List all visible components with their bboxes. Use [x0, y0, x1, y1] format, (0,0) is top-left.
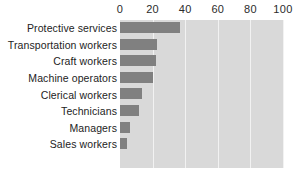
x-tick-label: 40	[179, 2, 192, 16]
x-tick-label: 20	[146, 2, 159, 16]
category-label: Machine operators	[28, 72, 117, 84]
bar	[120, 55, 156, 66]
category-row: Managers	[0, 120, 117, 137]
category-row: Sales workers	[0, 136, 117, 153]
category-axis-labels: Protective servicesTransportation worker…	[0, 20, 117, 168]
bar	[120, 22, 180, 33]
x-tick-label: 80	[244, 2, 257, 16]
category-label: Craft workers	[53, 55, 117, 67]
category-label: Transportation workers	[8, 39, 117, 51]
gridline	[283, 20, 284, 168]
x-tick-label: 60	[211, 2, 224, 16]
bar-row	[120, 86, 283, 103]
category-label: Managers	[70, 122, 118, 134]
bar-chart: 020406080100 Protective servicesTranspor…	[0, 0, 295, 177]
category-label: Clerical workers	[41, 89, 117, 101]
bar	[120, 122, 130, 133]
x-tick-label: 100	[273, 2, 292, 16]
x-axis: 020406080100	[120, 2, 283, 20]
bar	[120, 88, 142, 99]
category-row: Transportation workers	[0, 37, 117, 54]
bar-row	[120, 70, 283, 87]
bar	[120, 39, 157, 50]
bar	[120, 72, 153, 83]
bar-row	[120, 20, 283, 37]
bar	[120, 105, 139, 116]
category-row: Craft workers	[0, 53, 117, 70]
plot-area	[120, 20, 283, 168]
category-row: Protective services	[0, 20, 117, 37]
bar-row	[120, 103, 283, 120]
bar-row	[120, 120, 283, 137]
bar-row	[120, 37, 283, 54]
category-label: Protective services	[27, 22, 117, 34]
bar	[120, 138, 127, 149]
category-label: Sales workers	[50, 138, 117, 150]
bars-container	[120, 20, 283, 168]
category-label: Technicians	[61, 105, 117, 117]
bar-row	[120, 53, 283, 70]
x-tick-label: 0	[117, 2, 123, 16]
category-row: Clerical workers	[0, 86, 117, 103]
category-row: Technicians	[0, 103, 117, 120]
category-row: Machine operators	[0, 70, 117, 87]
bar-row	[120, 136, 283, 153]
